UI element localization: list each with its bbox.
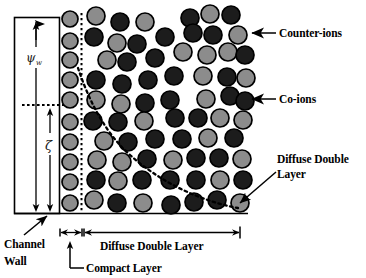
zeta-glyph: ζ xyxy=(45,138,53,153)
compact-layer-label: Compact Layer xyxy=(86,262,162,275)
diffuse-counter-ion xyxy=(164,151,182,169)
diffuse-co-ion xyxy=(146,130,164,148)
compact-counter-ion xyxy=(62,33,78,49)
diffuse-co-ion xyxy=(204,26,222,44)
compact-counter-ion xyxy=(62,154,78,170)
diffuse-counter-ion xyxy=(174,43,192,61)
compact-counter-ion xyxy=(62,114,78,130)
diffuse-co-ion xyxy=(208,191,226,209)
diffuse-co-ion xyxy=(185,193,203,211)
diffuse-co-ion xyxy=(165,67,183,85)
psi-subscript-glyph: w xyxy=(36,59,42,67)
diffuse-counter-ion xyxy=(88,151,106,169)
zeta-symbol: ζ xyxy=(45,138,53,153)
diffuse-counter-ion xyxy=(194,67,212,85)
diffuse-counter-ion xyxy=(87,7,105,25)
diffuse-co-ion xyxy=(236,46,254,64)
psi-glyph: ψ xyxy=(26,51,36,65)
diffuse-counter-ion xyxy=(197,90,215,108)
compact-counter-ion xyxy=(62,11,78,27)
diffuse-counter-ion xyxy=(211,171,229,189)
ddl-right-label-line2: Layer xyxy=(277,168,306,181)
compact-counter-ion xyxy=(62,72,78,88)
diffuse-counter-ion xyxy=(233,150,251,168)
diffuse-co-ion xyxy=(133,171,151,189)
diffuse-co-ion xyxy=(187,149,205,167)
diagram-canvas: ψ w ζ Co xyxy=(0,0,366,278)
diffuse-co-ion xyxy=(173,130,191,148)
diffuse-co-ion xyxy=(109,113,127,131)
diffuse-counter-ion xyxy=(112,95,130,113)
compact-counter-ion xyxy=(62,52,78,68)
diffuse-co-ion xyxy=(128,35,146,53)
diffuse-co-ion xyxy=(222,6,240,24)
diffuse-co-ion xyxy=(85,28,103,46)
co-ions-annotation: Co-ions xyxy=(252,93,317,105)
compact-layer-ion-group xyxy=(62,11,78,211)
ddl-bottom-label-group: Diffuse Double Layer xyxy=(100,240,203,253)
diffuse-co-ion xyxy=(187,171,205,189)
channel-wall-annotation: Channel Wall xyxy=(4,216,47,267)
counter-ions-annotation: Counter-ions xyxy=(252,27,343,39)
diffuse-co-ion xyxy=(138,150,156,168)
edl-diagram-figure: ψ w ζ Co xyxy=(0,0,366,278)
diffuse-co-ion xyxy=(113,75,131,93)
diffuse-co-ion xyxy=(218,68,236,86)
diffuse-counter-ion xyxy=(113,153,131,171)
diffuse-co-ion xyxy=(156,28,174,46)
diffuse-co-ion xyxy=(136,94,154,112)
ddl-bottom-label: Diffuse Double Layer xyxy=(100,240,203,253)
diffuse-co-ion xyxy=(87,171,105,189)
diffuse-layer-dimension-bar xyxy=(84,227,240,239)
diffuse-co-ion xyxy=(236,92,254,110)
diffuse-co-ion xyxy=(225,129,243,147)
diffuse-counter-ion xyxy=(134,194,152,212)
co-ions-label: Co-ions xyxy=(279,93,317,105)
channel-wall-label-line2: Wall xyxy=(4,255,27,267)
diffuse-co-ion xyxy=(111,13,129,31)
diffuse-counter-ion xyxy=(234,111,252,129)
diffuse-co-ion xyxy=(161,91,179,109)
diffuse-co-ion xyxy=(189,109,207,127)
diffuse-counter-ion xyxy=(109,172,127,190)
diffuse-co-ion xyxy=(118,53,136,71)
compact-counter-ion xyxy=(62,134,78,150)
diffuse-co-ion xyxy=(166,109,184,127)
diffuse-counter-ion xyxy=(199,129,217,147)
diffuse-counter-ion xyxy=(219,43,237,61)
diffuse-co-ion xyxy=(87,71,105,89)
diffuse-co-ion xyxy=(146,49,164,67)
counter-ions-label: Counter-ions xyxy=(279,27,343,39)
diffuse-counter-ion xyxy=(98,51,116,69)
ddl-right-label-line1: Diffuse Double xyxy=(277,153,349,165)
diffuse-co-ion xyxy=(234,171,252,189)
diffuse-co-ion xyxy=(84,112,102,130)
channel-wall-label-line1: Channel xyxy=(4,238,45,250)
diffuse-counter-ion xyxy=(229,26,247,44)
diffuse-counter-ion xyxy=(237,69,255,87)
diffuse-counter-ion xyxy=(198,46,216,64)
compact-counter-ion xyxy=(62,195,78,211)
diffuse-double-layer-annotation: Diffuse Double Layer xyxy=(240,153,349,203)
diffuse-counter-ion xyxy=(87,91,105,109)
compact-counter-ion xyxy=(62,92,78,108)
diffuse-co-ion xyxy=(162,196,180,214)
diffuse-counter-ion xyxy=(201,5,219,23)
diffuse-counter-ion xyxy=(136,13,154,31)
compact-counter-ion xyxy=(62,174,78,190)
diffuse-co-ion xyxy=(139,71,157,89)
diffuse-counter-ion xyxy=(211,109,229,127)
compact-layer-dimension-bar xyxy=(60,229,82,237)
diffuse-counter-ion xyxy=(85,191,103,209)
diffuse-co-ion xyxy=(184,24,202,42)
diffuse-co-ion xyxy=(108,194,126,212)
diffuse-counter-ion xyxy=(108,34,126,52)
diffuse-co-ion xyxy=(210,149,228,167)
diffuse-counter-ion xyxy=(135,112,153,130)
